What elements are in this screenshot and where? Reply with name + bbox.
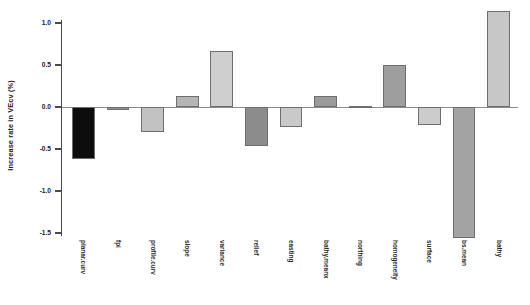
x-axis-category-label: bathy: [495, 240, 502, 257]
y-axis-label-text: Increase rate in VEcv (%): [6, 80, 15, 170]
y-tick-label: -1.0: [11, 187, 51, 194]
y-axis-line: [61, 20, 62, 236]
y-tick-label: -1.5: [11, 229, 51, 236]
x-axis-category-label: homogeneity: [391, 240, 398, 280]
bar: [314, 96, 337, 107]
bar: [176, 96, 199, 107]
y-tick-mark: [55, 64, 61, 65]
bar: [141, 107, 164, 132]
y-tick-label: 1.0: [11, 19, 51, 26]
x-axis-category-label: northing: [357, 240, 364, 266]
x-axis-category-label: bathy.meanx: [322, 240, 329, 279]
y-tick-mark: [55, 148, 61, 149]
y-tick-mark: [55, 232, 61, 233]
y-tick-label: 0.0: [11, 103, 51, 110]
y-axis-label: Increase rate in VEcv (%): [0, 0, 20, 250]
bar: [453, 107, 476, 238]
x-axis-category-label: relief: [253, 240, 260, 255]
bar: [245, 107, 268, 146]
bar: [210, 51, 233, 107]
y-tick-mark: [55, 190, 61, 191]
x-axis-category-label: bs.mean: [461, 240, 468, 266]
x-axis-category-label: planar.curv: [80, 240, 87, 274]
y-tick-label: 0.5: [11, 61, 51, 68]
bar: [487, 11, 510, 107]
bar: [418, 107, 441, 125]
chart-figure: Increase rate in VEcv (%) 1.00.50.0-0.5-…: [0, 0, 530, 305]
x-axis-category-label: variance: [218, 240, 225, 266]
x-axis-category-label: profile.curv: [149, 240, 156, 275]
bar: [280, 107, 303, 127]
bar: [107, 107, 130, 110]
x-axis-category-label: surface: [426, 240, 433, 263]
bar: [349, 106, 372, 108]
bar: [383, 65, 406, 107]
y-tick-mark: [55, 22, 61, 23]
x-axis-category-label: fpi: [114, 240, 121, 248]
bar: [72, 107, 95, 159]
x-axis-category: bathy: [479, 240, 519, 302]
x-axis-category-label: easting: [288, 240, 295, 262]
y-tick-mark: [55, 106, 61, 107]
y-tick-label: -0.5: [11, 145, 51, 152]
x-axis-category-label: slope: [184, 240, 191, 257]
